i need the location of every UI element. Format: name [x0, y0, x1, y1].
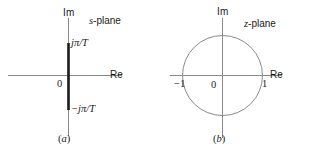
- s-plane-axes-graphic: [0, 0, 158, 153]
- s-plane-name-suffix: -plane: [93, 15, 121, 26]
- z-plane-caption: (b): [213, 134, 225, 145]
- z-plane-left-tick-label: −1: [174, 79, 185, 90]
- figure-s-plane-z-plane-mapping: Im Re s-plane jπ/T 0 −jπ/T (a) Im Re z-p…: [0, 0, 317, 153]
- z-plane-axes-graphic: [158, 0, 317, 153]
- s-plane-caption-letter: a: [62, 133, 67, 144]
- z-plane-name-suffix: -plane: [248, 18, 276, 29]
- s-plane-imaginary-axis-label: Im: [63, 8, 74, 18]
- s-plane-origin-label: 0: [57, 79, 62, 90]
- s-plane-real-axis-label: Re: [110, 70, 123, 80]
- z-plane-origin-label: 0: [211, 80, 216, 91]
- z-plane-name-label: z-plane: [244, 19, 276, 30]
- panel-z-plane: Im Re z-plane −1 0 1 (b): [158, 0, 317, 153]
- z-plane-imaginary-axis-label: Im: [217, 7, 228, 17]
- s-plane-lower-frequency-mark-label: −jπ/T: [71, 104, 95, 115]
- s-plane-upper-frequency-mark-label: jπ/T: [71, 38, 88, 49]
- s-plane-name-label: s-plane: [89, 16, 121, 27]
- s-plane-caption: (a): [58, 134, 70, 145]
- panel-s-plane: Im Re s-plane jπ/T 0 −jπ/T (a): [0, 0, 158, 153]
- z-plane-caption-letter: b: [217, 133, 222, 144]
- z-plane-right-tick-label: 1: [262, 79, 267, 90]
- z-plane-real-axis-label: Re: [270, 70, 283, 80]
